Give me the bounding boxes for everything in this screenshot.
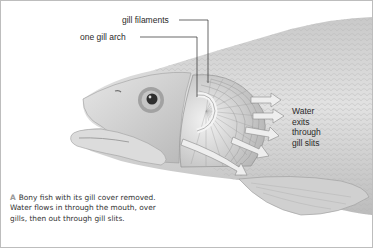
label-one-gill-arch: one gill arch <box>80 33 126 42</box>
figure-frame: gill filaments one gill arch Water exits… <box>0 0 373 248</box>
exit-label-line: gill slits <box>292 138 321 149</box>
label-gill-filaments: gill filaments <box>122 16 169 25</box>
exit-label-line: through <box>292 127 321 138</box>
eye <box>138 87 164 113</box>
figure-caption: ABony fish with its gill cover removed. … <box>10 193 160 224</box>
exit-label-line: exits <box>292 117 321 128</box>
exit-label-line: Water <box>292 106 321 117</box>
water-exits-label: Water exits through gill slits <box>292 106 321 148</box>
caption-text: Bony fish with its gill cover removed. W… <box>10 193 156 223</box>
caption-marker: A <box>10 193 16 202</box>
